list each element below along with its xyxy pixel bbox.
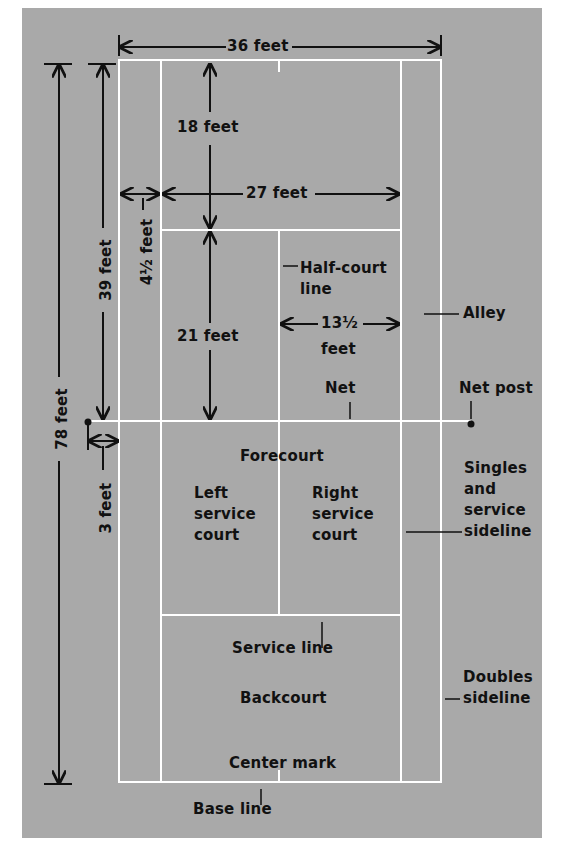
court-lines [88, 60, 471, 782]
service-line-label: Service line [232, 638, 333, 659]
center-mark-label: Center mark [229, 753, 336, 774]
net-label: Net [325, 378, 356, 399]
forecourt-label: Forecourt [240, 446, 324, 467]
singles-service-sideline-label: Singles and service sideline [464, 458, 532, 542]
left-service-court-label: Left service court [194, 483, 256, 546]
width-13-half-unit-label: feet [321, 339, 356, 360]
base-line-label: Base line [193, 799, 272, 820]
length-18-feet-label: 18 feet [177, 117, 239, 138]
right-net-post-icon [468, 421, 475, 428]
net-post-label: Net post [459, 378, 533, 399]
net-post-3-feet-label: 3 feet [97, 470, 115, 546]
half-court-line-label: Half-court line [300, 258, 387, 300]
alley-label: Alley [463, 303, 506, 324]
backcourt-label: Backcourt [240, 688, 327, 709]
court-diagram [0, 0, 563, 859]
width-36-feet-label: 36 feet [227, 36, 289, 57]
width-27-feet-label: 27 feet [246, 183, 308, 204]
length-21-feet-label: 21 feet [177, 326, 239, 347]
alley-4-half-feet-label: 4½ feet [138, 210, 156, 294]
doubles-sideline-label: Doubles sideline [463, 667, 533, 709]
length-39-feet-label: 39 feet [97, 228, 115, 312]
left-net-post-icon [85, 419, 92, 426]
right-service-court-label: Right service court [312, 483, 374, 546]
width-13-half-label: 13½ [321, 313, 358, 334]
length-78-feet-label: 78 feet [53, 377, 71, 461]
